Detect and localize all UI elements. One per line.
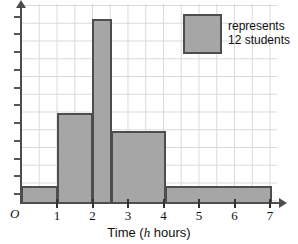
x-axis-tick-label: 4: [154, 208, 174, 224]
x-axis-tick: [163, 199, 165, 208]
y-axis-tick: [14, 193, 21, 195]
x-axis-tick: [127, 199, 129, 208]
x-axis-tick-label: 7: [260, 208, 280, 224]
histogram-bar: [57, 113, 94, 204]
x-axis-tick: [56, 199, 58, 208]
legend-label: represents 12 students: [228, 19, 290, 47]
y-axis-tick: [14, 175, 21, 177]
y-axis-tick: [14, 140, 21, 142]
y-axis-tick: [14, 87, 21, 89]
legend-swatch: [183, 14, 222, 54]
x-axis-title-tail: hours): [150, 225, 190, 240]
x-axis-line: [21, 202, 281, 204]
histogram-bar: [92, 19, 112, 204]
x-axis-arrow: [279, 198, 287, 208]
origin-label: O: [10, 206, 19, 222]
y-axis-tick: [14, 69, 21, 71]
y-axis-tick: [14, 104, 21, 106]
histogram-figure: 1 2 3 4 5 6 7 O represents 12 students T…: [0, 0, 298, 244]
y-axis-tick: [14, 122, 21, 124]
y-axis-arrow: [16, 0, 26, 8]
x-axis-tick: [269, 199, 271, 208]
x-axis-title-main: Time (: [107, 225, 143, 240]
x-axis-tick: [198, 199, 200, 208]
x-axis-tick-label: 6: [225, 208, 245, 224]
y-axis-tick: [14, 158, 21, 160]
y-axis-tick: [14, 51, 21, 53]
x-axis-tick: [234, 199, 236, 208]
legend-label-line2: 12 students: [228, 33, 290, 47]
y-axis-tick: [14, 16, 21, 18]
legend-label-line1: represents: [228, 19, 290, 33]
x-axis-tick: [92, 199, 94, 208]
histogram-bar: [111, 131, 166, 204]
x-axis-tick-label: 2: [83, 208, 103, 224]
x-axis-title: Time (h hours): [0, 225, 298, 241]
x-axis-tick-label: 3: [118, 208, 138, 224]
x-axis-tick-label: 5: [189, 208, 209, 224]
x-axis-tick-label: 1: [47, 208, 67, 224]
y-axis-tick: [14, 33, 21, 35]
